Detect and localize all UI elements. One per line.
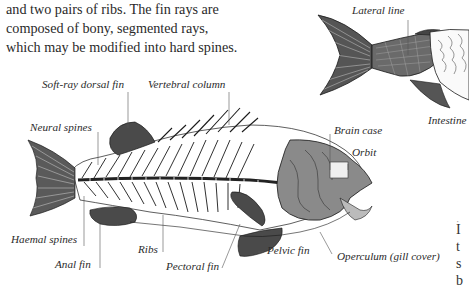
right-column-fragment: b xyxy=(456,271,463,289)
label-lateral-line: Lateral line xyxy=(352,4,405,16)
label-vertebral-column: Vertebral column xyxy=(148,78,225,90)
label-neural-spines: Neural spines xyxy=(30,121,92,133)
label-operculum: Operculum (gill cover) xyxy=(337,250,440,262)
fish-illustrations xyxy=(0,0,469,289)
label-soft-ray-dorsal-fin: Soft-ray dorsal fin xyxy=(42,78,124,90)
label-haemal-spines: Haemal spines xyxy=(11,233,77,245)
label-ribs: Ribs xyxy=(138,243,158,255)
label-brain-case: Brain case xyxy=(334,124,382,136)
label-orbit: Orbit xyxy=(352,146,376,158)
label-pectoral-fin: Pectoral fin xyxy=(166,260,219,272)
fish-anatomy-illustration xyxy=(318,15,469,108)
label-anal-fin: Anal fin xyxy=(55,258,91,270)
label-intestine: Intestine xyxy=(428,114,467,126)
label-pelvic-fin: Pelvic fin xyxy=(267,244,310,256)
